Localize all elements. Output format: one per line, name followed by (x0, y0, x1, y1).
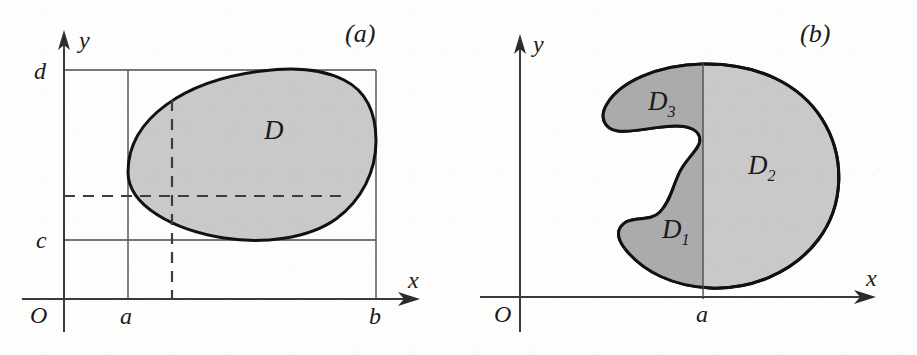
origin-label-a: O (30, 302, 47, 328)
tick-label-a-y-bottom: c (36, 227, 47, 253)
origin-label-b: O (494, 301, 511, 327)
panel-caption-b: (b) (800, 19, 830, 48)
x-axis-label-a: x (407, 267, 419, 293)
y-axis-label-a: y (77, 27, 90, 53)
y-axis-label-b: y (531, 31, 544, 57)
region-label-d2-base: D (747, 150, 768, 180)
panel-caption-a: (a) (345, 19, 375, 48)
panel-a: y x O a b c d D (a) (22, 19, 420, 332)
region-label-d2-sub: 2 (768, 167, 776, 184)
region-label-d3-base: D (647, 86, 668, 116)
panel-b: y x O a D3 D2 D1 (b) (480, 19, 877, 332)
region-label-d1-base: D (661, 214, 682, 244)
tick-label-a-y-top: d (34, 58, 47, 84)
tick-label-b-x-cut: a (696, 301, 708, 327)
region-d-shape (128, 69, 376, 240)
tick-label-a-x-left: a (120, 303, 132, 329)
region-label-d3-sub: 3 (667, 103, 676, 120)
tick-label-a-x-right: b (369, 303, 381, 329)
x-axis-label-b: x (865, 265, 877, 291)
region-label-d1-sub: 1 (682, 231, 690, 248)
region-label-d: D (263, 115, 284, 145)
diagram-canvas: y x O a b c d D (a) (0, 0, 917, 355)
figure-root: y x O a b c d D (a) (0, 0, 917, 355)
